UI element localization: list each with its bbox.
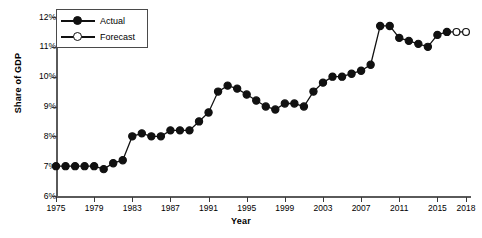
data-point-actual — [415, 40, 422, 47]
data-point-actual — [243, 91, 250, 98]
data-point-actual — [205, 109, 212, 116]
data-point-actual — [300, 103, 307, 110]
legend-line-forecast — [61, 36, 95, 38]
data-point-actual — [52, 163, 59, 170]
data-point-actual — [253, 97, 260, 104]
legend-item-forecast: Forecast — [61, 29, 135, 45]
chart-legend: Actual Forecast — [56, 9, 148, 48]
data-point-actual — [214, 88, 221, 95]
data-point-actual — [62, 163, 69, 170]
legend-line-actual — [61, 20, 95, 22]
data-point-actual — [176, 127, 183, 134]
data-point-actual — [348, 70, 355, 77]
data-point-actual — [186, 127, 193, 134]
open-circle-icon — [73, 32, 82, 41]
data-point-actual — [119, 157, 126, 164]
data-point-forecast — [453, 29, 460, 36]
data-point-actual — [129, 133, 136, 140]
data-point-actual — [81, 163, 88, 170]
data-point-actual — [396, 34, 403, 41]
data-point-actual — [224, 82, 231, 89]
data-point-actual — [338, 73, 345, 80]
data-point-actual — [138, 130, 145, 137]
data-point-actual — [386, 22, 393, 29]
data-point-actual — [424, 43, 431, 50]
data-point-actual — [434, 31, 441, 38]
data-point-actual — [234, 85, 241, 92]
data-point-actual — [281, 100, 288, 107]
data-point-actual — [272, 106, 279, 113]
data-point-actual — [291, 100, 298, 107]
data-point-actual — [91, 163, 98, 170]
data-point-actual — [443, 28, 450, 35]
data-point-actual — [310, 88, 317, 95]
data-point-actual — [367, 61, 374, 68]
data-point-actual — [319, 79, 326, 86]
data-point-forecast — [463, 29, 470, 36]
gdp-share-line-chart: Share of GDP Year 6%7%8%9%10%11%12% 1975… — [0, 0, 482, 238]
data-point-actual — [110, 160, 117, 167]
data-point-actual — [157, 133, 164, 140]
data-point-actual — [71, 163, 78, 170]
data-point-actual — [195, 118, 202, 125]
filled-circle-icon — [73, 16, 82, 25]
data-point-actual — [405, 37, 412, 44]
legend-label-actual: Actual — [100, 16, 125, 26]
data-point-actual — [262, 103, 269, 110]
legend-label-forecast: Forecast — [100, 32, 135, 42]
data-point-actual — [358, 67, 365, 74]
data-point-actual — [148, 133, 155, 140]
data-point-actual — [167, 127, 174, 134]
legend-item-actual: Actual — [61, 13, 125, 29]
data-point-actual — [329, 73, 336, 80]
data-point-actual — [377, 22, 384, 29]
data-point-actual — [100, 166, 107, 173]
